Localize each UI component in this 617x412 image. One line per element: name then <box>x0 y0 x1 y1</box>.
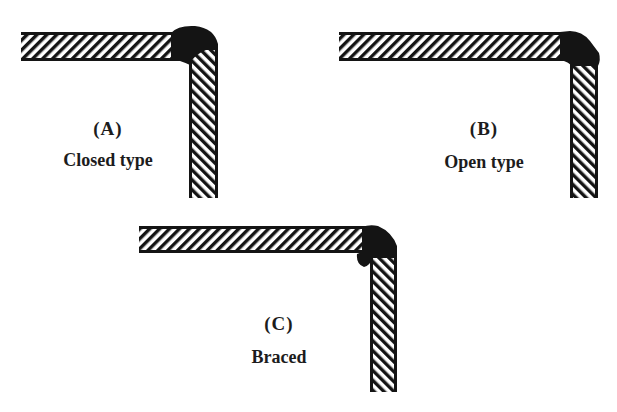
horizontal-plate <box>339 32 569 61</box>
joint-a-closed-type <box>21 26 218 198</box>
joint-b-letter: (B) <box>444 118 524 140</box>
vertical-plate <box>189 46 218 198</box>
horizontal-plate <box>139 226 367 253</box>
joint-c-caption: Braced <box>229 347 329 368</box>
joint-b-caption: Open type <box>418 152 550 173</box>
joint-a-caption: Closed type <box>40 150 176 171</box>
vertical-plate <box>370 256 397 392</box>
joint-c-letter: (C) <box>239 313 319 335</box>
weld-bead-open <box>560 31 600 66</box>
joint-a-letter: (A) <box>68 118 148 140</box>
horizontal-plate <box>21 32 191 61</box>
vertical-plate <box>570 63 598 198</box>
